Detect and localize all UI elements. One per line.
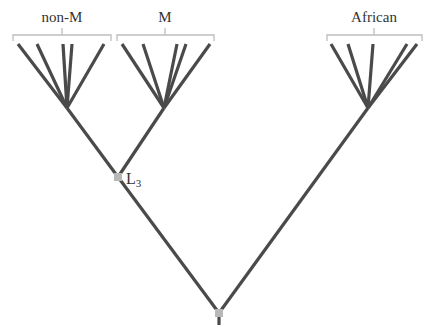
leaf-branch (122, 44, 164, 108)
leaf-branch (368, 44, 417, 108)
node-marker-root (215, 309, 223, 317)
tree-branches (18, 44, 417, 325)
branch-l3-to-m (118, 108, 164, 177)
bracket-african (327, 28, 422, 41)
group-labels: non-M M African L3 (42, 9, 398, 189)
leaf-branch (143, 44, 164, 108)
group-label-non-m: non-M (42, 9, 83, 25)
phylogenetic-tree-diagram: non-M M African L3 (0, 0, 436, 330)
group-label-african: African (351, 9, 397, 25)
node-label-l3: L3 (126, 170, 142, 189)
bracket-m (117, 28, 214, 41)
node-label-l3-subscript: 3 (136, 177, 142, 189)
branch-root-to-african (219, 108, 368, 313)
branch-root-to-l3 (118, 177, 219, 313)
bracket-non-m (13, 28, 111, 41)
group-label-m: M (158, 9, 171, 25)
node-label-l3-main: L (126, 170, 136, 187)
branch-l3-to-non-m (67, 108, 118, 177)
node-marker-l3 (114, 173, 122, 181)
group-brackets (13, 28, 422, 41)
